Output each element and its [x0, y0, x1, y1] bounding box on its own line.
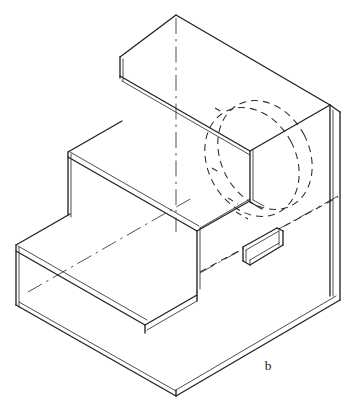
edge-base-bottom-right	[176, 300, 340, 396]
technical-drawing-canvas: b	[0, 0, 358, 415]
slot-face-fill	[243, 228, 283, 265]
edge-upper-riser-shoulder	[250, 202, 262, 209]
edge-base-bottom-right-inner	[176, 296, 336, 390]
isometric-step-block-drawing: b	[0, 0, 358, 415]
keyway-slot-feature	[243, 228, 283, 265]
figure-label: b	[265, 358, 272, 373]
face-tall-wall-right	[330, 105, 340, 300]
